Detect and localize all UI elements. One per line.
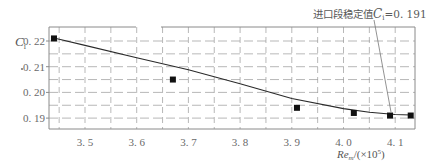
fit-curve	[54, 38, 411, 115]
x-axis-label: Rem/(×105)	[336, 148, 385, 162]
y-tick-label: 0. 19	[23, 112, 46, 124]
line-chart: 3. 53. 63. 73. 83. 94. 04. 1 0. 190. 200…	[0, 0, 431, 164]
annotation-leader-line	[374, 20, 391, 112]
data-point-marker	[408, 113, 414, 119]
annotation-text: 进口段稳定值Ci=0. 191	[313, 7, 427, 22]
x-tick-label: 3. 9	[284, 136, 301, 148]
x-tick-label: 3. 5	[77, 136, 94, 148]
y-tick-label: 0. 20	[23, 86, 46, 98]
plot-frame	[49, 27, 415, 129]
data-point-marker	[170, 77, 176, 83]
curve-path	[54, 38, 411, 115]
x-tick-label: 4. 0	[335, 136, 352, 148]
x-tick-label: 3. 8	[232, 136, 249, 148]
data-markers	[51, 35, 414, 118]
y-axis-ticks: 0. 190. 200. 210. 22	[23, 35, 49, 124]
annotation: 进口段稳定值Ci=0. 191	[313, 7, 427, 112]
grid-lines	[49, 27, 415, 129]
x-tick-label: 3. 7	[180, 136, 197, 148]
x-axis-ticks: 3. 53. 63. 73. 83. 94. 04. 1	[77, 136, 404, 148]
y-tick-label: 0. 21	[23, 61, 45, 73]
x-tick-label: 4. 1	[387, 136, 404, 148]
data-point-marker	[51, 35, 57, 41]
stray-dot	[21, 68, 23, 70]
x-tick-label: 3. 6	[128, 136, 145, 148]
data-point-marker	[294, 105, 300, 111]
y-tick-label: 0. 22	[23, 35, 45, 47]
data-point-marker	[351, 110, 357, 116]
data-point-marker	[387, 113, 393, 119]
